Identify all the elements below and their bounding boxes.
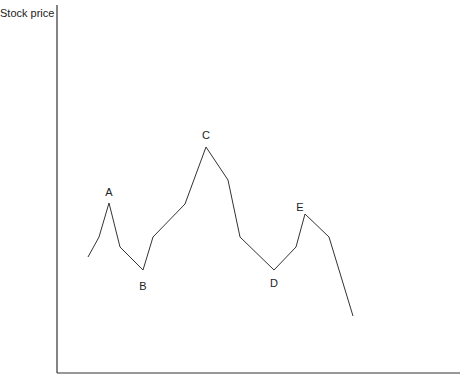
chart-canvas: ABCDE [0,0,460,379]
point-label-b: B [139,280,146,292]
point-label-c: C [202,129,210,141]
point-labels: ABCDE [105,129,303,292]
point-label-a: A [105,186,113,198]
point-label-e: E [296,201,303,213]
point-label-d: D [270,277,278,289]
price-line [88,147,353,316]
